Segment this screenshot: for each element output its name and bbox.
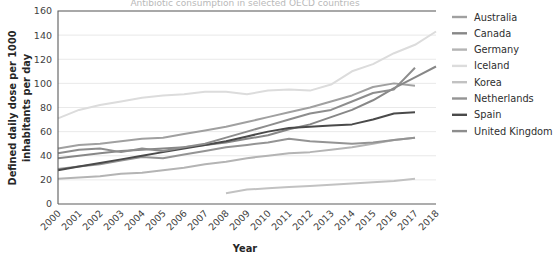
chart-legend: AustraliaCanadaGermanyIcelandKoreaNether…: [452, 12, 553, 137]
x-tick-label: 2005: [143, 208, 168, 233]
x-tick-label: 2016: [374, 208, 399, 233]
x-axis-title: Year: [232, 243, 257, 254]
legend-label-spain[interactable]: Spain: [474, 109, 501, 120]
legend-label-korea[interactable]: Korea: [474, 77, 502, 88]
x-axis-tick-labels: 2000200120022003200420052006200720082009…: [38, 208, 441, 233]
y-tick-label: 60: [40, 126, 52, 137]
x-tick-label: 2002: [80, 208, 105, 233]
x-tick-label: 2007: [185, 208, 210, 233]
y-tick-label: 120: [34, 54, 52, 65]
x-tick-label: 2004: [122, 208, 147, 233]
y-tick-label: 100: [34, 78, 52, 89]
gridlines: [58, 11, 436, 180]
legend-label-germany[interactable]: Germany: [474, 44, 519, 55]
series-line-iceland: [58, 32, 436, 119]
x-tick-label: 2013: [311, 208, 336, 233]
x-tick-label: 2000: [38, 208, 63, 233]
line-chart: Antibiotic consumption in selected OECD …: [0, 0, 558, 261]
y-tick-label: 80: [40, 102, 52, 113]
x-tick-label: 2001: [59, 208, 84, 233]
chart-title: Antibiotic consumption in selected OECD …: [130, 0, 359, 8]
x-tick-label: 2006: [164, 208, 189, 233]
x-tick-label: 2014: [332, 208, 357, 233]
y-tick-label: 20: [40, 174, 52, 185]
x-tick-label: 2015: [353, 208, 378, 233]
y-tick-label: 40: [40, 150, 52, 161]
legend-label-iceland[interactable]: Iceland: [474, 60, 509, 71]
legend-label-united-kingdom[interactable]: United Kingdom: [474, 126, 553, 137]
legend-label-australia[interactable]: Australia: [474, 12, 517, 23]
x-tick-label: 2009: [227, 208, 252, 233]
chart-title-group: Antibiotic consumption in selected OECD …: [130, 0, 359, 8]
series-line-korea: [226, 179, 415, 193]
y-axis-tick-labels: 020406080100120140160: [34, 5, 52, 209]
y-tick-label: 0: [46, 198, 52, 209]
y-tick-label: 140: [34, 30, 52, 41]
x-tick-label: 2010: [248, 208, 273, 233]
series-lines: [58, 32, 436, 194]
x-tick-label: 2018: [416, 208, 441, 233]
x-tick-label: 2008: [206, 208, 231, 233]
x-tick-label: 2003: [101, 208, 126, 233]
chart-figure: Antibiotic consumption in selected OECD …: [0, 0, 558, 261]
x-tick-label: 2012: [290, 208, 315, 233]
legend-label-canada[interactable]: Canada: [474, 28, 511, 39]
y-axis-title: Defined daily dose per 1000 inhabitants …: [7, 30, 32, 185]
legend-label-netherlands[interactable]: Netherlands: [474, 93, 534, 104]
x-tick-label: 2017: [395, 208, 420, 233]
y-axis-title-line2: inhabitants per day: [21, 53, 32, 162]
y-tick-label: 160: [34, 5, 52, 16]
x-tick-label: 2011: [269, 208, 294, 233]
y-axis-title-line1: Defined daily dose per 1000: [7, 30, 18, 185]
